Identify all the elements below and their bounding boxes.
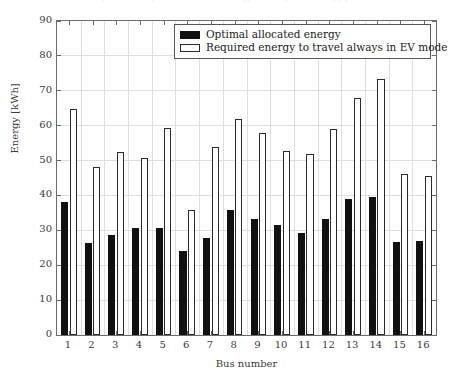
bar-optimal-allocated-energy	[61, 202, 68, 335]
figure-title-cutoff: Comparison of optimal allocated energy a…	[0, 0, 459, 9]
bar-required-ev-energy	[330, 129, 337, 335]
bar-required-ev-energy	[306, 154, 313, 335]
bar-required-ev-energy	[188, 210, 195, 335]
bar-optimal-allocated-energy	[251, 219, 258, 335]
y-axis-label: Energy [kWh]	[9, 138, 20, 154]
y-tick-label: 30	[8, 224, 52, 234]
chart-legend: Optimal allocated energy Required energy…	[174, 24, 431, 59]
bar-required-ev-energy	[117, 152, 124, 335]
x-axis-label: Bus number	[56, 358, 437, 369]
legend-swatch-optimal-icon	[180, 31, 200, 39]
bar-optimal-allocated-energy	[369, 197, 376, 336]
bar-optimal-allocated-energy	[298, 233, 305, 335]
bar-required-ev-energy	[401, 174, 408, 335]
bar-optimal-allocated-energy	[416, 241, 423, 335]
y-tick-label: 20	[8, 259, 52, 269]
bar-required-ev-energy	[235, 119, 242, 335]
bar-optimal-allocated-energy	[132, 228, 139, 335]
y-tick-label: 50	[8, 155, 52, 165]
bar-optimal-allocated-energy	[393, 242, 400, 335]
bar-optimal-allocated-energy	[322, 219, 329, 335]
y-tick-label: 0	[8, 329, 52, 339]
bar-optimal-allocated-energy	[156, 228, 163, 335]
bar-required-ev-energy	[93, 167, 100, 335]
legend-label-required: Required energy to travel always in EV m…	[206, 42, 447, 53]
bar-optimal-allocated-energy	[85, 243, 92, 335]
chart-figure: Comparison of optimal allocated energy a…	[0, 0, 459, 380]
legend-entry-optimal: Optimal allocated energy	[180, 28, 425, 41]
figure-title-text: Comparison of optimal allocated energy a…	[0, 0, 459, 2]
bars-layer	[57, 21, 436, 335]
bar-required-ev-energy	[377, 79, 384, 335]
bar-optimal-allocated-energy	[227, 210, 234, 335]
y-tick-label: 40	[8, 189, 52, 199]
y-tick-label: 60	[8, 120, 52, 130]
bar-required-ev-energy	[70, 109, 77, 335]
bar-optimal-allocated-energy	[274, 225, 281, 335]
bar-optimal-allocated-energy	[179, 251, 186, 335]
plot-area	[56, 20, 437, 336]
bar-required-ev-energy	[425, 176, 432, 335]
y-tick-label: 70	[8, 85, 52, 95]
y-tick-label: 80	[8, 50, 52, 60]
x-tick-label: 16	[408, 340, 438, 350]
bar-required-ev-energy	[164, 128, 171, 335]
bar-required-ev-energy	[212, 147, 219, 335]
bar-required-ev-energy	[283, 151, 290, 335]
bar-optimal-allocated-energy	[203, 238, 210, 335]
bar-optimal-allocated-energy	[108, 235, 115, 335]
legend-label-optimal: Optimal allocated energy	[206, 29, 341, 40]
bar-required-ev-energy	[354, 98, 361, 335]
legend-entry-required: Required energy to travel always in EV m…	[180, 41, 425, 54]
bar-required-ev-energy	[259, 133, 266, 335]
bar-optimal-allocated-energy	[345, 199, 352, 335]
legend-swatch-required-icon	[180, 44, 200, 52]
bar-required-ev-energy	[141, 158, 148, 335]
y-tick-label: 10	[8, 294, 52, 304]
y-tick-label: 90	[8, 15, 52, 25]
